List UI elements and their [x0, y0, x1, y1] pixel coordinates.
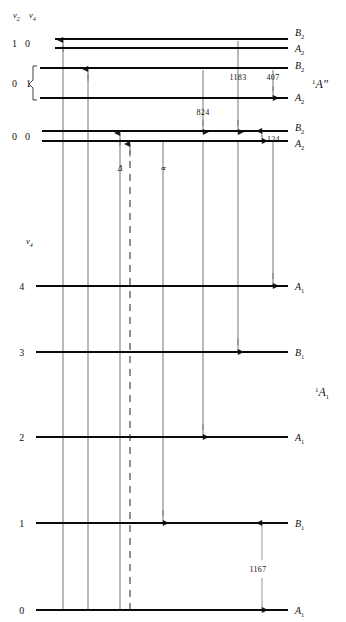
- term-symbol-lower-0: A1: [294, 605, 304, 618]
- annotation-1167: 1167: [250, 565, 267, 574]
- annotation-1183: 1183: [230, 73, 247, 82]
- term-symbol-upper-0: B2: [295, 27, 304, 40]
- qn-row-1-v2: 0: [12, 78, 18, 89]
- level-number-0: 0: [19, 605, 25, 616]
- annotation-124: 124: [267, 135, 280, 144]
- electronic-state-upper: 1A″: [312, 77, 329, 91]
- lower-nu4-label: ν4: [26, 236, 33, 248]
- qn-row-0-v4: 0: [25, 38, 31, 49]
- electronic-state-lower: 1A1: [315, 385, 329, 400]
- term-symbol-upper-2: B2: [295, 60, 304, 73]
- qn-row-0-v2: 1: [12, 38, 18, 49]
- qn-row-1-v4: 1: [26, 78, 32, 89]
- transition-group: [63, 40, 273, 610]
- transition-mark-alpha: ∝: [160, 164, 166, 173]
- transition-mark-delta: Δ: [117, 164, 123, 173]
- level-number-1: 1: [19, 518, 25, 529]
- upper-level-group: [40, 39, 288, 141]
- term-symbol-lower-4: A1: [294, 281, 304, 294]
- level-number-2: 2: [19, 432, 25, 443]
- annotation-824: 824: [197, 108, 210, 117]
- level-number-3: 3: [19, 347, 25, 358]
- header-nu2-label: ν2: [13, 10, 20, 22]
- term-symbol-upper-1: A2: [294, 43, 304, 56]
- energy-level-diagram: ν2 ν4 1 0 0 1 0 0 B2 A2 B2 A2 B2 A2 1A″ …: [0, 0, 346, 622]
- term-symbol-upper-4: B2: [295, 122, 304, 135]
- qn-row-2-v2: 0: [12, 131, 18, 142]
- annotation-407: 407: [267, 73, 280, 82]
- level-number-4: 4: [19, 281, 25, 292]
- lower-level-group: [36, 286, 288, 610]
- term-symbol-upper-5: A2: [294, 138, 304, 151]
- term-symbol-lower-3: B1: [295, 347, 304, 360]
- diagram-canvas: ν2 ν4 1 0 0 1 0 0 B2 A2 B2 A2 B2 A2 1A″ …: [0, 0, 346, 622]
- header-nu4-label: ν4: [29, 10, 36, 22]
- term-symbol-lower-1: B1: [295, 518, 304, 531]
- term-symbol-upper-3: A2: [294, 92, 304, 105]
- term-symbol-lower-2: A1: [294, 432, 304, 445]
- qn-row-2-v4: 0: [25, 131, 31, 142]
